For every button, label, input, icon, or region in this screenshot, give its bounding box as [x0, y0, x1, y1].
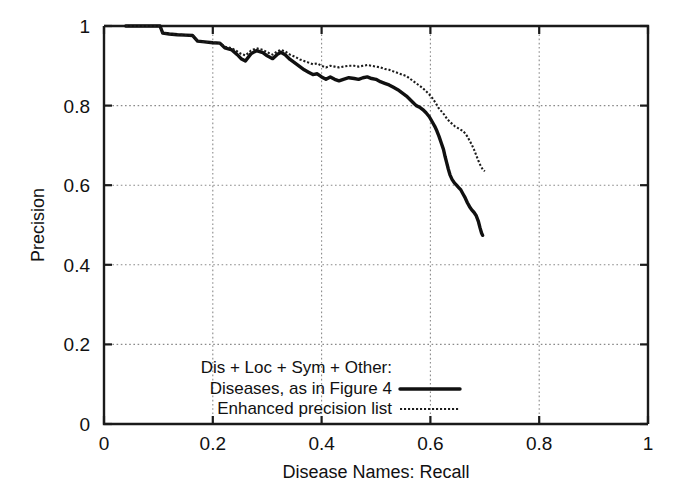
x-tick-label: 0.2: [200, 433, 226, 454]
y-tick-label: 0.4: [64, 255, 91, 276]
x-tick-label: 0: [99, 433, 110, 454]
x-tick-label: 0.4: [308, 433, 335, 454]
y-tick-label: 1: [79, 16, 90, 37]
y-tick-label: 0.8: [64, 96, 90, 117]
y-tick-label: 0.6: [64, 175, 90, 196]
precision-recall-figure: 00.20.40.60.81 00.20.40.60.81 Disease Na…: [0, 0, 688, 497]
x-tick-label: 0.6: [417, 433, 443, 454]
legend-header: Dis + Loc + Sym + Other:: [201, 358, 392, 377]
legend-label-enhanced: Enhanced precision list: [217, 399, 392, 418]
y-tick-label: 0: [79, 414, 90, 435]
x-tick-label: 0.8: [526, 433, 552, 454]
chart-canvas: 00.20.40.60.81 00.20.40.60.81 Disease Na…: [0, 0, 688, 497]
x-axis-title: Disease Names: Recall: [282, 462, 469, 482]
y-tick-label: 0.2: [64, 334, 90, 355]
x-tick-label: 1: [643, 433, 654, 454]
y-axis-title: Precision: [28, 188, 48, 262]
legend-label-diseases: Diseases, as in Figure 4: [210, 379, 392, 398]
